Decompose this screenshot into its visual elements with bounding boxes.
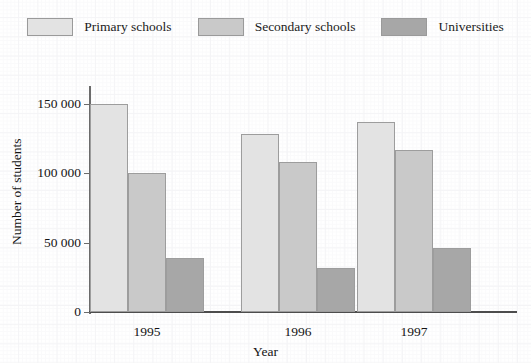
x-tick-label: 1997 xyxy=(401,325,428,339)
y-tick-label: 150 000 xyxy=(37,97,81,111)
bar xyxy=(395,150,433,312)
bar xyxy=(241,134,279,312)
x-axis-title: Year xyxy=(0,345,531,359)
bar xyxy=(128,173,166,312)
legend-entry-primary-schools: Primary schools xyxy=(27,18,197,36)
bar xyxy=(357,122,395,312)
bar-chart-figure: Primary schools Secondary schools Univer… xyxy=(0,0,531,363)
bar xyxy=(433,248,471,312)
y-tick-label: 100 000 xyxy=(37,167,81,181)
bar xyxy=(317,268,355,312)
x-tick-label: 1995 xyxy=(134,325,161,339)
bar xyxy=(90,104,128,312)
bar xyxy=(166,258,204,312)
y-tick-mark xyxy=(84,312,90,313)
y-tick-label: 0 xyxy=(74,305,81,319)
plot-area: 050 000100 000150 000 xyxy=(90,90,520,312)
y-axis-title-text: Number of students xyxy=(10,139,24,245)
chart-legend: Primary schools Secondary schools Univer… xyxy=(0,14,531,40)
legend-swatch-primary-schools xyxy=(27,18,73,36)
legend-swatch-universities xyxy=(381,18,427,36)
y-tick-label: 50 000 xyxy=(44,236,81,250)
x-tick-label: 1996 xyxy=(285,325,312,339)
legend-entry-universities: Universities xyxy=(381,18,503,36)
legend-label-universities: Universities xyxy=(438,20,503,34)
legend-label-secondary-schools: Secondary schools xyxy=(255,20,356,34)
legend-entry-secondary-schools: Secondary schools xyxy=(198,18,382,36)
y-axis-title: Number of students xyxy=(4,112,30,272)
legend-swatch-secondary-schools xyxy=(198,18,244,36)
bar xyxy=(279,162,317,312)
legend-label-primary-schools: Primary schools xyxy=(84,20,171,34)
